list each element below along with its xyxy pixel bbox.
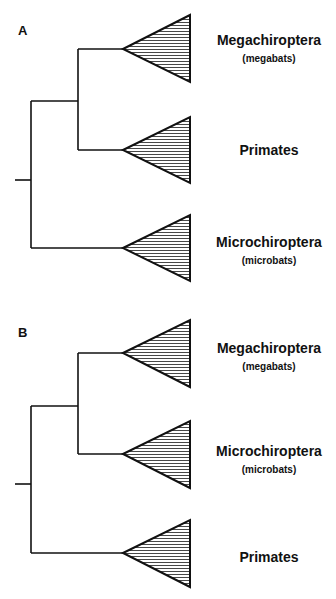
clade-triangles-b xyxy=(123,320,190,587)
taxon-label: Megachiroptera (megabats) xyxy=(204,32,334,66)
taxon-label: Primates xyxy=(204,142,334,159)
taxon-label: Microchiroptera (microbats) xyxy=(204,443,334,477)
clade-triangle-primates xyxy=(123,117,190,183)
taxon-common-name: (megabats) xyxy=(204,360,334,374)
taxon-name: Primates xyxy=(204,549,334,566)
panel-label-b: B xyxy=(18,325,27,340)
tree-a xyxy=(15,49,123,248)
clade-triangle-megachiroptera xyxy=(123,320,190,387)
taxon-common-name: (megabats) xyxy=(204,52,334,66)
clade-triangles-a xyxy=(123,15,190,281)
taxon-name: Microchiroptera xyxy=(204,234,334,251)
taxon-name: Microchiroptera xyxy=(204,443,334,460)
tree-b xyxy=(15,353,123,553)
panel-label-a: A xyxy=(18,23,27,38)
clade-triangle-megachiroptera xyxy=(123,15,190,82)
clade-triangle-primates xyxy=(123,520,190,587)
taxon-common-name: (microbats) xyxy=(204,254,334,268)
taxon-label: Primates xyxy=(204,549,334,566)
phylogeny-diagram xyxy=(0,0,336,599)
taxon-common-name: (microbats) xyxy=(204,463,334,477)
taxon-label: Megachiroptera (megabats) xyxy=(204,340,334,374)
taxon-name: Megachiroptera xyxy=(204,340,334,357)
taxon-label: Microchiroptera (microbats) xyxy=(204,234,334,268)
clade-triangle-microchiroptera xyxy=(123,215,190,281)
taxon-name: Megachiroptera xyxy=(204,32,334,49)
clade-triangle-microchiroptera xyxy=(123,421,190,488)
taxon-name: Primates xyxy=(204,142,334,159)
